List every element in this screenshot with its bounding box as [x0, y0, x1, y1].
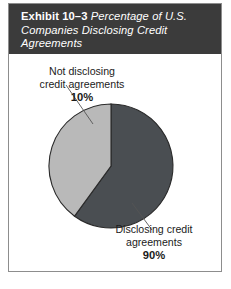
- callout-not-disclosing-line1: Not disclosing: [49, 65, 115, 77]
- callout-disclosing-percent: 90%: [93, 249, 215, 262]
- callout-not-disclosing-line2: credit agreements: [40, 78, 125, 90]
- callout-not-disclosing-percent: 10%: [19, 91, 145, 104]
- callout-disclosing-line1: Disclosing credit: [115, 223, 192, 235]
- callout-disclosing-line2: agreements: [126, 236, 182, 248]
- exhibit-caption-bar: Exhibit 10–3 Percentage of U.S. Companie…: [9, 4, 221, 54]
- exhibit-frame: Exhibit 10–3 Percentage of U.S. Companie…: [8, 3, 222, 272]
- exhibit-number: Exhibit 10–3: [21, 10, 88, 22]
- exhibit-caption: Exhibit 10–3 Percentage of U.S. Companie…: [21, 10, 211, 51]
- pie-chart-area: Not disclosing credit agreements 10% Dis…: [9, 54, 221, 271]
- callout-disclosing: Disclosing credit agreements 90%: [93, 223, 215, 262]
- callout-not-disclosing: Not disclosing credit agreements 10%: [19, 65, 145, 104]
